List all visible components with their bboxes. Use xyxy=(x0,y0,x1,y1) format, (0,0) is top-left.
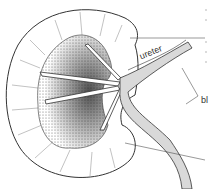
leader-line-bl xyxy=(182,68,198,104)
blood-vessels-label: bl xyxy=(201,95,208,105)
kidney-diagram xyxy=(0,0,211,189)
